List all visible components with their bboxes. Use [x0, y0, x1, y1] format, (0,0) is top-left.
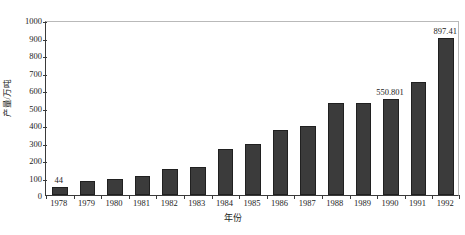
y-axis-tick-mark [43, 40, 47, 41]
y-axis-tick-labels: 10009008007006005004003002001000 [14, 0, 44, 235]
x-axis-tick-label: 1983 [183, 199, 211, 208]
x-axis-tick-label: 1978 [45, 199, 73, 208]
bar[interactable] [300, 126, 315, 195]
bar-value-label: 44 [29, 176, 89, 185]
y-axis-tick-label: 500 [29, 105, 42, 114]
y-axis-tick-mark [43, 110, 47, 111]
y-axis-title: 产量/万吨 [0, 0, 14, 196]
bar[interactable] [162, 169, 177, 195]
y-axis-tick-mark [43, 22, 47, 23]
bar[interactable] [328, 103, 343, 195]
bar-value-label: 897.41 [415, 27, 465, 36]
bar-chart-figure: 产量/万吨 10009008007006005004003002001000 年… [0, 0, 465, 235]
y-axis-tick-mark [43, 145, 47, 146]
x-axis-tick-label: 1984 [211, 199, 239, 208]
x-axis-tick-label: 1991 [404, 199, 432, 208]
y-axis-tick-label: 900 [29, 35, 42, 44]
y-axis-tick-label: 800 [29, 52, 42, 61]
x-axis-tick-label: 1980 [100, 199, 128, 208]
bar[interactable] [411, 82, 426, 195]
x-axis-tick-label: 1992 [431, 199, 459, 208]
x-axis-tick-mark [459, 195, 460, 199]
x-axis-tick-label: 1985 [238, 199, 266, 208]
bar[interactable] [356, 103, 371, 195]
bar-series [46, 22, 458, 195]
y-axis-tick-label: 600 [29, 87, 42, 96]
x-axis-tick-label: 1986 [266, 199, 294, 208]
y-axis-tick-label: 700 [29, 70, 42, 79]
bar[interactable] [107, 179, 122, 195]
x-axis-tick-label: 1990 [376, 199, 404, 208]
y-axis-tick-label: 400 [29, 122, 42, 131]
y-axis-tick-mark [43, 75, 47, 76]
y-axis-title-text: 产量/万吨 [3, 79, 12, 117]
bar[interactable] [383, 99, 398, 195]
y-axis-tick-mark [43, 92, 47, 93]
x-axis-tick-label: 1987 [293, 199, 321, 208]
bar[interactable] [52, 187, 67, 195]
x-axis-title: 年份 [0, 211, 465, 224]
bar[interactable] [273, 130, 288, 195]
y-axis-tick-label: 200 [29, 157, 42, 166]
bar[interactable] [245, 144, 260, 195]
bar[interactable] [190, 167, 205, 195]
y-axis-tick-label: 0 [38, 192, 42, 201]
bar-value-label: 550.801 [360, 88, 420, 97]
bar[interactable] [438, 38, 453, 195]
y-axis-tick-label: 300 [29, 140, 42, 149]
x-axis-tick-label: 1988 [321, 199, 349, 208]
y-axis-tick-mark [43, 162, 47, 163]
bar[interactable] [218, 149, 233, 195]
x-axis-tick-label: 1981 [128, 199, 156, 208]
x-axis-tick-label: 1979 [73, 199, 101, 208]
x-axis-tick-label: 1989 [349, 199, 377, 208]
x-axis-tick-label: 1982 [155, 199, 183, 208]
plot-area [45, 21, 459, 196]
y-axis-tick-label: 1000 [25, 17, 42, 26]
y-axis-tick-mark [43, 127, 47, 128]
bar[interactable] [135, 176, 150, 195]
y-axis-tick-mark [43, 57, 47, 58]
